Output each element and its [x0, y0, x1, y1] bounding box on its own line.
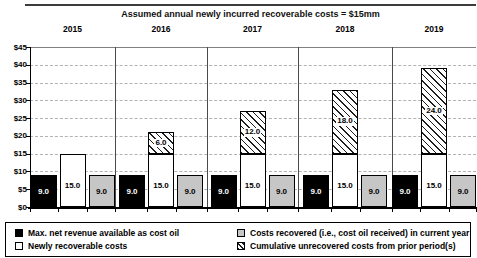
bar-value-label: 9.0 [32, 188, 56, 196]
bar-costs-recovered-2019: 9.0 [450, 175, 476, 207]
bar-value-label: 9.0 [362, 188, 386, 196]
bar-value-label: 15.0 [149, 182, 173, 190]
y-axis-tick [26, 136, 30, 137]
y-axis-tick-label: $10 [0, 167, 27, 176]
year-label-2017: 2017 [230, 24, 276, 34]
bar-max-net-revenue-2019: 9.0 [392, 175, 418, 207]
year-label-2015: 2015 [50, 24, 96, 34]
legend-item-newly-recoverable: Newly recoverable costs [15, 241, 237, 251]
bar-max-net-revenue-2015: 9.0 [31, 175, 57, 207]
black-bar-swatch-icon [15, 229, 23, 237]
year-label-2019: 2019 [411, 24, 457, 34]
y-axis-tick [26, 65, 30, 66]
x-axis-line [28, 207, 477, 209]
x-axis-tick [115, 209, 116, 212]
y-axis-tick-label: $5 [0, 185, 27, 194]
gray-bar-swatch-icon [237, 229, 245, 237]
y-axis-tick-label: $30 [0, 96, 27, 105]
y-axis-tick-label: $0 [0, 203, 27, 212]
x-axis-tick [267, 209, 268, 212]
group-divider [115, 47, 116, 207]
bar-costs-recovered-2016: 9.0 [177, 175, 203, 207]
y-axis-tick-label: $15 [0, 149, 27, 158]
bar-value-label: 9.0 [393, 188, 417, 196]
year-label-2018: 2018 [322, 24, 368, 34]
gridline [30, 65, 476, 66]
bar-cumulative-unrecovered-2019: 24.0 [421, 68, 447, 153]
bar-value-label: 15.0 [61, 182, 85, 190]
top-rule [25, 4, 476, 6]
y-axis-tick [26, 100, 30, 101]
legend-item-max-net-revenue: Max. net revenue available as cost oil [15, 228, 237, 238]
bar-value-label: 9.0 [270, 188, 294, 196]
bar-max-net-revenue-2018: 9.0 [303, 175, 329, 207]
x-axis-tick [360, 209, 361, 212]
bar-newly-recoverable-2015: 15.0 [60, 154, 86, 207]
bar-costs-recovered-2018: 9.0 [361, 175, 387, 207]
legend-item-costs-recovered: Costs recovered (i.e., cost oil received… [237, 228, 469, 238]
white-bar-swatch-icon [15, 242, 23, 250]
bar-value-label: 9.0 [451, 188, 475, 196]
y-axis-tick-label: $40 [0, 60, 27, 69]
hatch-bar-swatch-icon [237, 242, 245, 250]
bar-costs-recovered-2015: 9.0 [89, 175, 115, 207]
bar-cumulative-unrecovered-2016: 6.0 [148, 132, 174, 153]
bar-value-label: 15.0 [333, 182, 357, 190]
group-divider [298, 47, 299, 207]
bar-newly-recoverable-2017: 15.0 [240, 154, 266, 207]
group-divider [207, 47, 208, 207]
bar-value-label: 24.0 [425, 107, 443, 116]
gridline [30, 100, 476, 101]
x-axis-tick [298, 209, 299, 212]
x-axis-tick [420, 209, 421, 212]
y-axis-tick [26, 83, 30, 84]
y-axis-tick [26, 47, 30, 48]
bar-value-label: 9.0 [212, 188, 236, 196]
x-axis-tick [30, 209, 31, 212]
bar-value-label: 15.0 [422, 182, 446, 190]
bar-value-label: 9.0 [90, 188, 114, 196]
y-axis-tick-label: $35 [0, 78, 27, 87]
bar-newly-recoverable-2019: 15.0 [421, 154, 447, 207]
legend-label: Newly recoverable costs [28, 241, 127, 251]
x-axis-tick [176, 209, 177, 212]
plot-top-border [30, 47, 476, 48]
legend-label: Cumulative unrecovered costs from prior … [250, 241, 455, 251]
bar-value-label: 9.0 [178, 188, 202, 196]
y-axis-tick [26, 207, 30, 208]
y-axis-tick [26, 189, 30, 190]
bar-value-label: 9.0 [304, 188, 328, 196]
y-axis-tick [26, 154, 30, 155]
bar-cumulative-unrecovered-2017: 12.0 [240, 111, 266, 154]
bar-value-label: 9.0 [120, 188, 144, 196]
y-axis-tick-label: $20 [0, 131, 27, 140]
chart-title: Assumed annual newly incurred recoverabl… [25, 9, 476, 19]
y-axis-tick-label: $25 [0, 114, 27, 123]
bar-max-net-revenue-2016: 9.0 [119, 175, 145, 207]
bar-value-label: 18.0 [336, 117, 354, 126]
bar-value-label: 15.0 [241, 182, 265, 190]
legend-label: Costs recovered (i.e., cost oil received… [250, 228, 469, 238]
year-label-2016: 2016 [138, 24, 184, 34]
plot-area: 9.015.09.09.015.06.09.09.015.012.09.09.0… [30, 47, 476, 207]
legend-label: Max. net revenue available as cost oil [28, 228, 179, 238]
x-axis-tick [449, 209, 450, 212]
bar-value-label: 12.0 [244, 128, 262, 137]
bar-newly-recoverable-2018: 15.0 [332, 154, 358, 207]
x-axis-tick [87, 209, 88, 212]
x-axis-tick [147, 209, 148, 212]
bar-newly-recoverable-2016: 15.0 [148, 154, 174, 207]
bar-max-net-revenue-2017: 9.0 [211, 175, 237, 207]
x-axis-tick [392, 209, 393, 212]
x-axis-tick [207, 209, 208, 212]
bar-cumulative-unrecovered-2018: 18.0 [332, 90, 358, 154]
bar-costs-recovered-2017: 9.0 [269, 175, 295, 207]
y-axis-tick [26, 171, 30, 172]
legend-item-cumulative-unrecovered: Cumulative unrecovered costs from prior … [237, 241, 469, 251]
y-axis-tick [26, 118, 30, 119]
cost-recovery-chart: Assumed annual newly incurred recoverabl… [0, 0, 477, 258]
legend: Max. net revenue available as cost oil N… [5, 222, 471, 257]
x-axis-tick [331, 209, 332, 212]
y-axis-tick-label: $45 [0, 43, 27, 52]
x-axis-tick [58, 209, 59, 212]
